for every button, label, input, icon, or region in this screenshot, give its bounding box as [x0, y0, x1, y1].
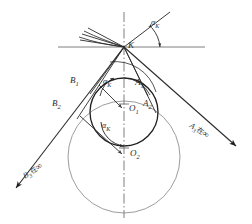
point-label-O2: O2: [130, 149, 140, 160]
ray-k-to-a3-infinity: [124, 47, 236, 146]
point-label-O1: O1: [129, 104, 139, 115]
pencil-curve-1: [84, 31, 124, 47]
angle-label-alpha-k-upper: αK: [103, 78, 111, 88]
angle-arc-k-top: [152, 28, 160, 47]
angle-label-alpha-k-lower: αK: [102, 122, 110, 132]
angle-label-alpha-k-top: αK: [151, 19, 159, 29]
point-label-A2: A2: [143, 99, 152, 110]
point-label-A1: A1: [135, 78, 144, 89]
radius-b2-to-o2: [80, 116, 122, 154]
point-label-K: K: [128, 41, 134, 52]
point-label-B2: B2: [52, 99, 61, 110]
chord-k-to-b2: [77, 47, 124, 119]
geometry-figure: K B1 B2 A1 A2 O1 O2 αK αK αK A3在∞ B3在∞: [0, 0, 252, 224]
point-label-B1: B1: [70, 76, 79, 87]
figure-canvas: [0, 0, 252, 224]
